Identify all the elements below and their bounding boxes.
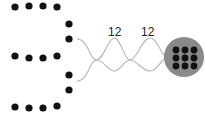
twist-label-1: 12 [108, 25, 122, 39]
wire-a [77, 38, 165, 60]
dot-row-bottom [11, 102, 60, 111]
cable-bundle [164, 37, 204, 77]
bundle-inner-dots [173, 47, 198, 70]
side-dots [65, 20, 72, 93]
twist-label-2: 12 [141, 25, 155, 39]
dot-row-top [11, 2, 60, 10]
wire-b [77, 58, 165, 81]
twisted-wires [77, 38, 165, 81]
dot-row-middle [11, 52, 60, 61]
twisted-pair-diagram: 12 12 [0, 0, 205, 113]
